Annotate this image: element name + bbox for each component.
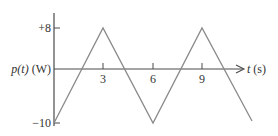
y-axis-var: p(t) xyxy=(10,62,28,76)
x-axis-var: t xyxy=(247,62,251,76)
y-tick-label-plus8: +8 xyxy=(38,21,51,35)
chart-svg: +8 −10 3 6 9 p(t) (W) t (s) xyxy=(0,0,278,136)
x-tick-label-9: 9 xyxy=(199,72,205,86)
y-axis-unit: (W) xyxy=(32,62,51,76)
x-tick-label-3: 3 xyxy=(100,72,106,86)
x-axis-unit: (s) xyxy=(253,62,266,76)
x-tick-label-6: 6 xyxy=(150,72,156,86)
y-axis-label: p(t) (W) xyxy=(10,62,51,76)
x-axis-label: t (s) xyxy=(247,62,266,76)
y-tick-label-minus10: −10 xyxy=(32,116,51,130)
